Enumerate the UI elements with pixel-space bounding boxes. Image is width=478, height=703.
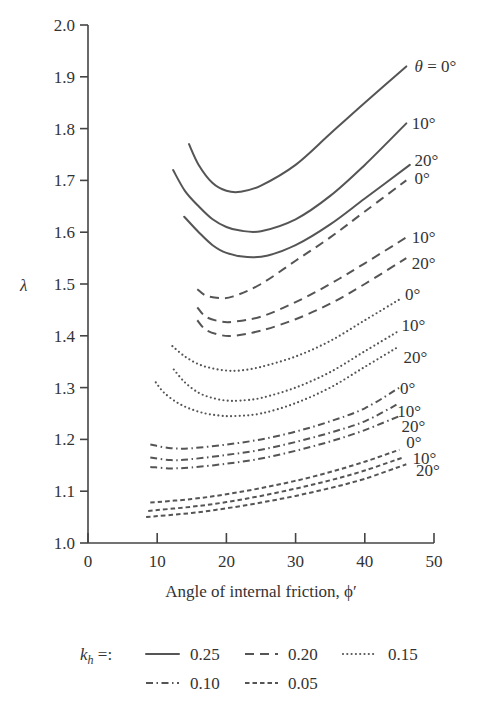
curve-kh-01-theta-20 (150, 416, 399, 468)
x-tick-label: 10 (149, 552, 166, 571)
y-tick-label: 1.2 (54, 430, 75, 449)
curve-label: 10° (412, 114, 436, 133)
y-tick-label: 1.4 (54, 327, 76, 346)
curve-label: 0° (415, 169, 430, 188)
legend-label: 0.25 (190, 645, 220, 664)
y-tick-label: 2.0 (54, 16, 75, 35)
curve-kh-005-theta-0 (150, 450, 399, 503)
legend-prefix: kh =: (80, 645, 112, 667)
legend-label: 0.05 (288, 674, 318, 693)
y-tick-label: 1.0 (54, 534, 75, 553)
axes (80, 25, 434, 543)
curve-label: θ = 0° (415, 57, 457, 76)
x-tick-label: 30 (287, 552, 304, 571)
curve-kh-015-theta-0 (172, 300, 399, 371)
curve-label: 0° (405, 285, 420, 304)
x-tick-label: 40 (356, 552, 373, 571)
curve-kh-01-theta-0 (150, 388, 399, 449)
curve-label: 20° (415, 151, 439, 170)
curve-label: 10° (412, 228, 436, 247)
plot-curves (146, 66, 410, 517)
curve-kh-02-theta-10 (197, 237, 406, 322)
y-tick-label: 1.1 (54, 482, 75, 501)
curve-label: 20° (416, 461, 440, 480)
y-tick-label: 1.7 (54, 171, 76, 190)
curve-kh-025-theta-20 (184, 165, 410, 257)
curve-kh-015-theta-20 (156, 346, 400, 416)
legend-label: 0.15 (388, 645, 418, 664)
curve-label: 0° (400, 379, 415, 398)
y-axis-title: λ (19, 276, 27, 295)
curve-label: 20° (404, 348, 428, 367)
x-tick-labels: 01020304050 (84, 552, 443, 571)
curve-labels: θ = 0°10°20°0°10°20°0°10°20°0°10°20°0°10… (397, 57, 456, 480)
curve-kh-005-theta-20 (146, 464, 406, 517)
y-tick-label: 1.9 (54, 68, 75, 87)
curve-kh-025-theta-0 (189, 66, 406, 192)
y-tick-label: 1.6 (54, 223, 75, 242)
legend-label: 0.20 (288, 645, 318, 664)
curve-kh-02-theta-0 (197, 180, 406, 298)
curve-label: 10° (401, 316, 425, 335)
y-tick-label: 1.8 (54, 120, 75, 139)
chart: 1.01.11.21.31.41.51.61.71.81.92.0 010203… (0, 0, 478, 703)
x-axis-title: Angle of internal friction, ϕ′ (165, 582, 357, 601)
y-tick-label: 1.3 (54, 379, 75, 398)
x-tick-label: 0 (84, 552, 93, 571)
x-tick-label: 50 (426, 552, 443, 571)
y-tick-labels: 1.01.11.21.31.41.51.61.71.81.92.0 (54, 16, 76, 553)
legend: kh =:0.250.200.150.100.05 (80, 645, 418, 693)
curve-kh-01-theta-10 (150, 403, 399, 460)
curve-label: 20° (412, 254, 436, 273)
curve-kh-005-theta-10 (148, 458, 403, 511)
y-tick-label: 1.5 (54, 275, 75, 294)
x-tick-label: 20 (218, 552, 235, 571)
legend-label: 0.10 (190, 674, 220, 693)
